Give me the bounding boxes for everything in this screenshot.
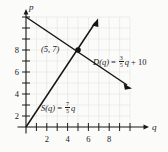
supply-demand-chart: p q 2 4 6 8 2 4 6 8 (5, 7) D(q) = 3 5 q … — [0, 0, 168, 152]
supply-denominator: 5 — [65, 107, 70, 114]
demand-coefficient-fraction: 3 5 — [119, 55, 124, 69]
demand-function-name: D(q) — [93, 58, 109, 67]
equilibrium-point-marker — [75, 47, 81, 53]
chart-canvas: p q 2 4 6 8 2 4 6 8 — [0, 0, 168, 152]
demand-variable: q — [125, 58, 129, 67]
supply-equation-label: S(q) = 7 5 q — [41, 101, 75, 115]
p-axis-arrowhead — [24, 9, 29, 15]
x-tick-label-6: 6 — [86, 134, 90, 144]
x-tick-label-4: 4 — [65, 134, 70, 144]
supply-equals-sign: = — [57, 104, 62, 113]
demand-denominator: 5 — [119, 61, 124, 68]
x-tick-label-2: 2 — [45, 134, 49, 144]
demand-equation-label: D(q) = 3 5 q + 10 — [93, 55, 147, 69]
demand-arrowhead — [124, 84, 132, 90]
q-axis-label: q — [152, 122, 157, 132]
equilibrium-point-label: (5, 7) — [41, 45, 59, 54]
supply-coefficient-fraction: 7 5 — [65, 101, 70, 115]
y-tick-label-8: 8 — [15, 45, 19, 55]
y-tick-label-6: 6 — [15, 67, 19, 77]
supply-function-name: S(q) — [41, 104, 55, 113]
demand-tail: + 10 — [131, 58, 146, 67]
supply-variable: q — [71, 104, 75, 113]
x-tick-label-8: 8 — [107, 134, 111, 144]
y-tick-label-4: 4 — [15, 89, 20, 99]
p-axis-label: p — [28, 2, 34, 12]
q-axis-arrowhead — [144, 125, 150, 130]
demand-equals-sign: = — [111, 58, 116, 67]
axis-lines — [18, 12, 146, 133]
y-tick-label-2: 2 — [15, 111, 19, 121]
